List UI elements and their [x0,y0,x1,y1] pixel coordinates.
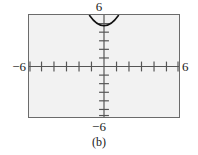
x-axis-min-label: −6 [4,60,26,73]
y-axis-min-label: −6 [0,120,198,133]
figure-b: 6 −6 6 −6 [0,0,198,155]
graph-plot [29,15,179,117]
figure-caption: (b) [0,136,198,148]
x-axis-max-label: 6 [182,60,198,73]
y-axis-max-label: 6 [0,0,198,13]
graph-viewport [28,14,180,118]
